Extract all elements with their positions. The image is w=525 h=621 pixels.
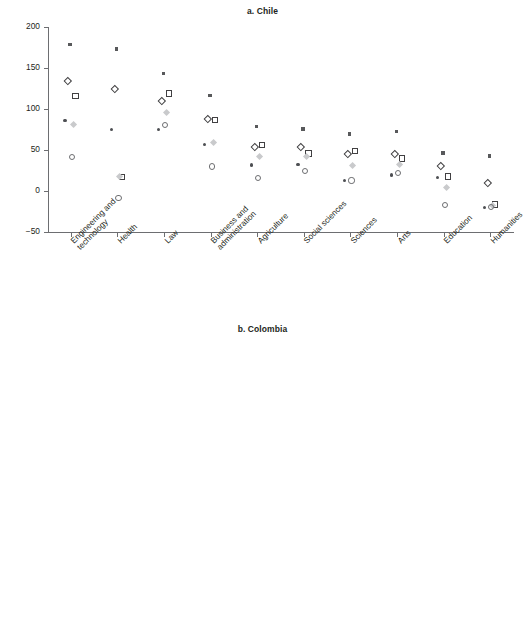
x-tick-label: Sciences — [349, 215, 379, 245]
data-point-small-filled-dot — [250, 163, 253, 166]
data-point-open-square — [259, 142, 265, 148]
data-point-filled-diamond-light — [349, 162, 356, 169]
data-point-small-filled-dot — [390, 173, 393, 176]
data-point-open-circle — [488, 204, 494, 210]
x-tick-label: Agriculture — [256, 211, 290, 245]
y-axis-line — [48, 27, 49, 232]
chart-panel-colombia: b. Colombia −50050100150200LawEngineerin… — [0, 311, 525, 621]
data-point-small-filled-dot — [483, 206, 486, 209]
chart-panel-chile: a. Chile −50050100150200Engineering and … — [0, 0, 525, 310]
data-point-small-filled-dot — [110, 128, 113, 131]
data-point-filled-diamond-light — [443, 184, 450, 191]
y-tick-label: 200 — [10, 22, 40, 30]
data-point-open-diamond — [297, 143, 305, 151]
data-point-small-filled-square — [395, 130, 399, 134]
y-tick — [44, 68, 48, 69]
data-point-open-square — [166, 90, 172, 96]
data-point-open-circle — [395, 170, 401, 176]
data-point-open-circle — [255, 175, 261, 181]
y-tick-label: −50 — [10, 227, 40, 235]
y-tick-label: 50 — [10, 145, 40, 153]
x-tick-label: Education — [442, 213, 474, 245]
data-point-open-circle — [162, 122, 168, 128]
x-tick-label: Humanities — [489, 210, 524, 245]
data-point-small-filled-dot — [203, 143, 206, 146]
data-point-small-filled-square — [441, 151, 445, 155]
data-point-open-diamond — [111, 84, 119, 92]
y-tick-label: 150 — [10, 63, 40, 71]
y-tick — [44, 232, 48, 233]
data-point-small-filled-square — [115, 47, 119, 51]
y-tick — [44, 150, 48, 151]
data-point-open-diamond — [484, 179, 492, 187]
data-point-small-filled-square — [162, 72, 166, 76]
x-tick-label: Law — [163, 228, 180, 245]
data-point-open-diamond — [251, 143, 259, 151]
data-point-small-filled-square — [68, 43, 72, 47]
data-point-open-circle — [115, 195, 121, 201]
data-point-filled-diamond-light — [210, 139, 217, 146]
data-point-small-filled-square — [208, 94, 212, 98]
x-tick-label: Social sciences — [302, 199, 348, 245]
x-tick-label: Business and administration — [209, 203, 258, 252]
plot-area-a: −50050100150200Engineering and technolog… — [48, 27, 514, 232]
data-point-filled-diamond-light — [396, 161, 403, 168]
data-point-open-circle — [69, 154, 75, 160]
chart-title-b: b. Colombia — [0, 324, 525, 334]
data-point-small-filled-dot — [63, 119, 66, 122]
data-point-open-circle — [442, 202, 448, 208]
data-point-open-diamond — [390, 150, 398, 158]
x-tick-label: Engineering and technology — [69, 197, 124, 252]
x-tick-label: Health — [116, 222, 139, 245]
data-point-filled-diamond-light — [70, 121, 77, 128]
data-point-open-square — [352, 148, 358, 154]
data-point-open-square — [212, 117, 218, 123]
data-point-small-filled-square — [488, 154, 492, 158]
y-tick — [44, 191, 48, 192]
y-tick-label: 100 — [10, 104, 40, 112]
data-point-small-filled-square — [255, 125, 259, 129]
chart-title-a: a. Chile — [0, 6, 525, 16]
data-point-open-circle — [302, 168, 308, 174]
data-point-small-filled-dot — [343, 179, 346, 182]
data-point-open-circle — [348, 177, 354, 183]
data-point-filled-diamond-light — [256, 152, 263, 159]
data-point-open-diamond — [157, 97, 165, 105]
data-point-open-square — [72, 93, 78, 99]
data-point-open-diamond — [204, 115, 212, 123]
y-tick — [44, 109, 48, 110]
data-point-filled-diamond-light — [303, 153, 310, 160]
data-point-small-filled-dot — [296, 163, 299, 166]
data-point-filled-diamond-light — [163, 109, 170, 116]
data-point-small-filled-square — [348, 132, 352, 136]
y-tick-label: 0 — [10, 186, 40, 194]
data-point-open-circle — [209, 163, 215, 169]
figure-root: a. Chile −50050100150200Engineering and … — [0, 0, 525, 621]
data-point-open-diamond — [344, 150, 352, 158]
data-point-small-filled-square — [301, 127, 305, 131]
data-point-open-diamond — [64, 77, 72, 85]
data-point-open-square — [445, 173, 451, 179]
data-point-small-filled-dot — [436, 176, 439, 179]
data-point-small-filled-dot — [157, 128, 160, 131]
data-point-open-diamond — [437, 161, 445, 169]
y-tick — [44, 27, 48, 28]
